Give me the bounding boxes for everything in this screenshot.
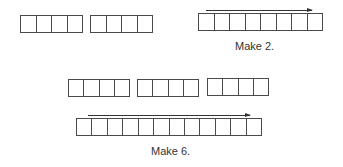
cell [308,14,323,30]
cell [216,119,231,135]
cell [169,80,184,96]
cell [239,79,254,95]
cell [208,79,223,95]
cell [115,80,129,96]
group-strip-1 [20,15,83,33]
caption-make-2: Make 2. [235,41,274,52]
cell [37,16,53,32]
combined-strip [198,13,323,31]
cell [199,14,215,30]
group-strip-2 [137,79,199,97]
cell [185,119,200,135]
cell [231,119,246,135]
cell [139,119,154,135]
group-strip-1 [68,79,130,97]
cell [138,16,153,32]
cell [261,14,277,30]
cell [215,14,231,30]
cell [107,16,123,32]
cell [277,14,293,30]
cell [77,119,92,135]
cell [223,79,238,95]
cell [69,80,84,96]
cell [200,119,215,135]
cell [153,80,168,96]
cell [92,119,107,135]
cell [122,16,138,32]
cell [123,119,138,135]
cell [246,14,262,30]
right-arrow-icon [206,10,312,11]
cell [68,16,83,32]
cell [170,119,185,135]
cell [91,16,107,32]
group-strip-3 [207,78,269,96]
cell [230,14,246,30]
caption-make-6: Make 6. [151,146,190,157]
combined-strip [76,118,262,136]
group-strip-2 [90,15,153,33]
cell [108,119,123,135]
cell [84,80,99,96]
cell [100,80,115,96]
cell [138,80,153,96]
cell [254,79,268,95]
cell [184,80,198,96]
cell [247,119,261,135]
cell [154,119,169,135]
right-arrow-icon [88,115,250,116]
cell [292,14,308,30]
cell [52,16,68,32]
cell [21,16,37,32]
